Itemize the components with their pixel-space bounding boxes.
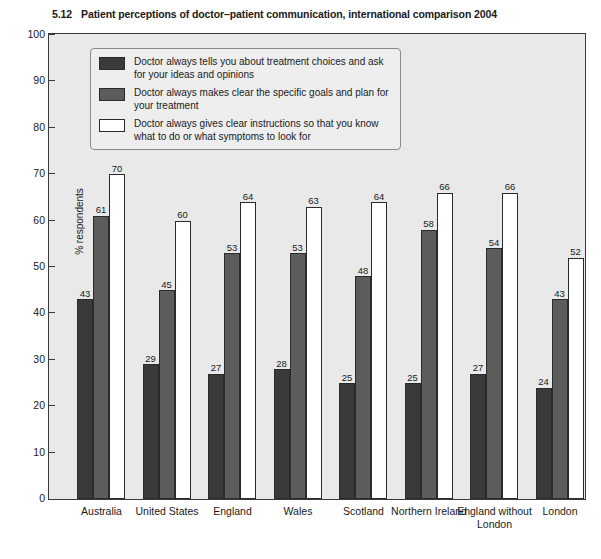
chart-title-text: Patient perceptions of doctor–patient co… bbox=[81, 8, 497, 20]
bar[interactable]: 27 bbox=[208, 374, 224, 499]
legend-item: Doctor always tells you about treatment … bbox=[99, 56, 392, 81]
bar-value-label: 60 bbox=[177, 210, 188, 220]
bar[interactable]: 53 bbox=[290, 253, 306, 499]
y-axis-tick-label: 30 bbox=[13, 354, 45, 365]
bar[interactable]: 54 bbox=[486, 248, 502, 499]
y-axis-tick-label: 70 bbox=[13, 168, 45, 179]
bar[interactable]: 66 bbox=[437, 193, 453, 499]
bar-group: 244352 bbox=[536, 34, 584, 499]
bar[interactable]: 53 bbox=[224, 253, 240, 499]
bar-value-label: 54 bbox=[489, 238, 500, 248]
bar-value-label: 70 bbox=[112, 164, 123, 174]
y-axis-tick-label: 80 bbox=[13, 122, 45, 133]
legend-item: Doctor always gives clear instructions s… bbox=[99, 118, 392, 143]
bar-value-label: 29 bbox=[145, 354, 156, 364]
y-axis-tick-label: 100 bbox=[13, 29, 45, 40]
x-axis-label: London bbox=[522, 505, 598, 518]
bar[interactable]: 61 bbox=[93, 216, 109, 499]
bar-value-label: 64 bbox=[243, 192, 254, 202]
legend-label: Doctor always gives clear instructions s… bbox=[134, 118, 392, 143]
bar-value-label: 66 bbox=[439, 182, 450, 192]
bar-value-label: 53 bbox=[227, 243, 238, 253]
legend-item: Doctor always makes clear the specific g… bbox=[99, 87, 392, 112]
y-axis-tick-label: 0 bbox=[13, 493, 45, 504]
plot-area: % respondents 0102030405060708090100 436… bbox=[48, 33, 586, 500]
legend-label: Doctor always tells you about treatment … bbox=[134, 56, 392, 81]
bar-value-label: 61 bbox=[96, 205, 107, 215]
bar[interactable]: 60 bbox=[175, 221, 191, 499]
bar[interactable]: 43 bbox=[77, 299, 93, 499]
page-title: 5.12Patient perceptions of doctor–patien… bbox=[52, 8, 497, 20]
bar-value-label: 24 bbox=[538, 377, 549, 387]
bar-value-label: 27 bbox=[211, 363, 222, 373]
legend-swatch-icon bbox=[99, 88, 125, 101]
legend-swatch-icon bbox=[99, 119, 125, 132]
y-axis-tick-label: 60 bbox=[13, 215, 45, 226]
bar-value-label: 28 bbox=[276, 359, 287, 369]
y-axis-tick-label: 10 bbox=[13, 447, 45, 458]
bar-value-label: 63 bbox=[308, 196, 319, 206]
chart-number: 5.12 bbox=[52, 8, 72, 20]
bar-value-label: 43 bbox=[554, 289, 565, 299]
bar-value-label: 45 bbox=[161, 280, 172, 290]
bar-value-label: 43 bbox=[80, 289, 91, 299]
bar[interactable]: 58 bbox=[421, 230, 437, 499]
bar[interactable]: 66 bbox=[502, 193, 518, 499]
bar-group: 255866 bbox=[405, 34, 453, 499]
bar-group: 275466 bbox=[470, 34, 518, 499]
bar-value-label: 25 bbox=[342, 373, 353, 383]
y-axis-tick-label: 20 bbox=[13, 400, 45, 411]
bar[interactable]: 24 bbox=[536, 388, 552, 499]
bar[interactable]: 29 bbox=[143, 364, 159, 499]
bar[interactable]: 48 bbox=[355, 276, 371, 499]
legend-label: Doctor always makes clear the specific g… bbox=[134, 87, 392, 112]
y-axis-tick-label: 90 bbox=[13, 75, 45, 86]
bar-value-label: 64 bbox=[374, 192, 385, 202]
bar[interactable]: 27 bbox=[470, 374, 486, 499]
bar-value-label: 66 bbox=[505, 182, 516, 192]
legend-swatch-icon bbox=[99, 57, 125, 70]
bar-value-label: 25 bbox=[407, 373, 418, 383]
bar[interactable]: 25 bbox=[339, 383, 355, 499]
bar[interactable]: 63 bbox=[306, 207, 322, 499]
bar-value-label: 27 bbox=[473, 363, 484, 373]
bar-value-label: 52 bbox=[570, 247, 581, 257]
y-axis-tick-label: 50 bbox=[13, 261, 45, 272]
bar[interactable]: 64 bbox=[240, 202, 256, 499]
bar[interactable]: 64 bbox=[371, 202, 387, 499]
bar[interactable]: 28 bbox=[274, 369, 290, 499]
bar[interactable]: 43 bbox=[552, 299, 568, 499]
bar[interactable]: 70 bbox=[109, 174, 125, 499]
bar-value-label: 53 bbox=[292, 243, 303, 253]
bar-value-label: 48 bbox=[358, 266, 369, 276]
bar[interactable]: 52 bbox=[568, 258, 584, 499]
bar-value-label: 58 bbox=[423, 219, 434, 229]
y-axis-tick-label: 40 bbox=[13, 307, 45, 318]
chart-legend: Doctor always tells you about treatment … bbox=[90, 48, 401, 150]
bar[interactable]: 25 bbox=[405, 383, 421, 499]
bar[interactable]: 45 bbox=[159, 290, 175, 499]
